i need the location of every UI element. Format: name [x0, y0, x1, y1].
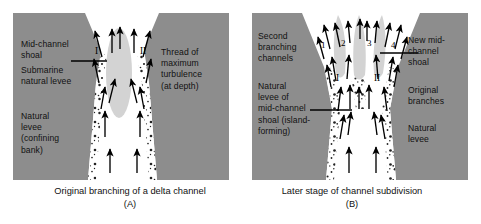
panel-a-diagram: Mid-channel shoal Submarine natural leve… [13, 13, 229, 180]
label-thread-of-maximum-turbulence: Thread of maximum turbulence (at depth) [161, 47, 227, 92]
label-mid-channel-shoal: Mid-channel shoal [21, 39, 89, 61]
channel-number-3: 3 [367, 38, 372, 48]
figure-container: Mid-channel shoal Submarine natural leve… [0, 0, 481, 224]
channel-mark-II-panel-b: II [374, 73, 380, 83]
label-original-branches: Original branches [408, 85, 466, 107]
caption-a-letter: (A) [0, 198, 260, 211]
label-new-mid-channel-shoal: New mid- channel shoal [408, 35, 468, 69]
caption-panel-b: Later stage of channel subdivision (B) [222, 185, 481, 211]
channel-number-4: 4 [391, 40, 396, 50]
channel-number-2: 2 [341, 38, 346, 48]
label-natural-levee-of-mid-channel-shoal: Natural levee of mid-channel shoal (isla… [258, 81, 330, 137]
caption-b-text: Later stage of channel subdivision [282, 186, 423, 196]
label-second-branching-channels: Second branching channels [258, 31, 320, 65]
caption-a-text: Original branching of a delta channel [54, 186, 205, 196]
label-natural-levee-b: Natural levee [408, 123, 466, 145]
panel-b-diagram: Second branching channels Natural levee … [252, 13, 468, 180]
channel-mark-II-panel-a: II [140, 46, 146, 56]
label-natural-levee-confining-bank: Natural levee (confining bank) [21, 111, 83, 156]
channel-number-1: 1 [321, 40, 326, 50]
caption-b-letter: (B) [222, 198, 481, 211]
channel-mark-I-panel-b: I [336, 73, 339, 83]
channel-mark-I-panel-a: I [95, 46, 98, 56]
caption-panel-a: Original branching of a delta channel (A… [0, 185, 260, 211]
mid-channel-shoal-shape [106, 28, 132, 118]
label-submarine-natural-levee: Submarine natural levee [21, 65, 93, 87]
